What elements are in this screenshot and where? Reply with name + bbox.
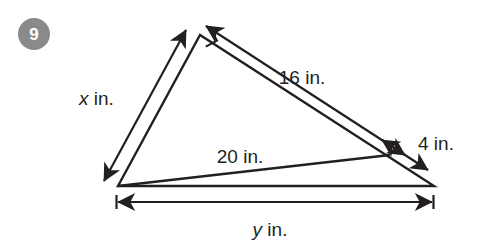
dimension-16: [206, 26, 405, 155]
label-side-16: 16 in.: [279, 67, 325, 88]
badge-number: 9: [29, 25, 38, 44]
geometry-figure: x in. 16 in. 20 in. 4 in. y in. 9: [0, 0, 488, 248]
dimension-x: [104, 30, 186, 181]
triangle-outline: [118, 35, 434, 186]
exercise-number-badge: 9: [18, 18, 50, 50]
label-cevian-20: 20 in.: [217, 146, 263, 167]
dimension-line-x: [104, 30, 186, 181]
triangle-path: [118, 35, 434, 186]
dimension-y: [117, 195, 434, 209]
triangle-diagram-svg: x in. 16 in. 20 in. 4 in. y in. 9: [0, 0, 488, 248]
label-side-x: x in.: [78, 88, 114, 109]
label-segment-4: 4 in.: [418, 133, 454, 154]
dimension-line-16: [206, 26, 405, 155]
label-base-y: y in.: [251, 219, 288, 240]
